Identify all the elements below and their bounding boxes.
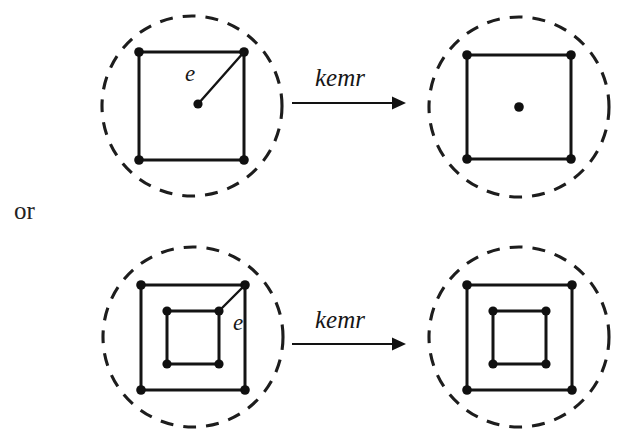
- arrow-bottom: kemr: [292, 306, 406, 351]
- edge-label-e-bottom: e: [233, 310, 243, 335]
- panel-bottom-right: [429, 247, 609, 427]
- dashed-circle-boundary-icon: [102, 16, 282, 196]
- graph-node: [136, 385, 146, 395]
- graph-node: [566, 154, 576, 164]
- inner-square-bottom-left: [162, 306, 223, 368]
- edge-e-top-left: [193, 52, 244, 109]
- or-connector-label: or: [14, 197, 36, 224]
- graph-node: [462, 385, 472, 395]
- graph-node: [136, 280, 146, 290]
- edge-label-e-top: e: [185, 61, 195, 86]
- cropped-caption-strip: [0, 441, 636, 448]
- square-outline: [467, 285, 572, 390]
- graph-node-center-isolated: [514, 102, 524, 112]
- graph-node: [162, 359, 171, 368]
- graph-node: [462, 50, 472, 60]
- graph-node: [488, 359, 497, 368]
- graph-node-center: [193, 99, 202, 108]
- graph-node: [134, 155, 144, 165]
- dashed-circle-boundary-icon: [429, 247, 609, 427]
- graph-node: [566, 50, 576, 60]
- arrow-label-kemr-bottom: kemr: [315, 306, 365, 333]
- dashed-circle-boundary-icon: [103, 247, 283, 427]
- square-outline: [493, 311, 546, 364]
- graph-node: [214, 359, 223, 368]
- graph-node: [134, 47, 144, 57]
- graph-node: [162, 306, 171, 315]
- figure-root: e kemr or: [0, 0, 636, 448]
- graph-node: [462, 154, 472, 164]
- panel-top-right: [429, 17, 609, 197]
- arrow-head-icon: [392, 338, 406, 351]
- inner-square-bottom-right: [488, 306, 550, 368]
- edge-e-line: [219, 285, 245, 311]
- arrow-label-kemr-top: kemr: [315, 64, 365, 91]
- graph-node: [541, 359, 550, 368]
- graph-rewriting-figure: e kemr or: [0, 0, 636, 448]
- arrow-head-icon: [392, 97, 406, 110]
- edge-e-line: [198, 52, 244, 104]
- graph-node: [567, 385, 577, 395]
- graph-node: [567, 280, 577, 290]
- panel-bottom-left: e: [103, 247, 283, 427]
- graph-node: [541, 306, 550, 315]
- graph-node: [462, 280, 472, 290]
- graph-node: [488, 306, 497, 315]
- panel-top-left: e: [102, 16, 282, 196]
- square-outline: [167, 311, 219, 364]
- outer-square-bottom-right: [462, 280, 577, 395]
- graph-node: [240, 385, 250, 395]
- graph-node: [239, 155, 249, 165]
- arrow-top: kemr: [292, 64, 406, 110]
